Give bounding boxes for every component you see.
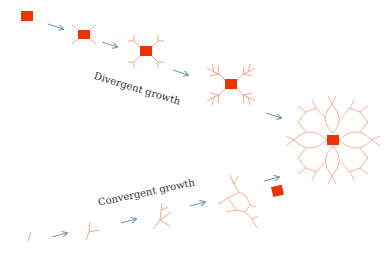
arrow-icon — [173, 70, 188, 75]
arrow-icon — [52, 233, 67, 237]
convergent-stage-2 — [86, 222, 99, 240]
arrow-icon — [121, 219, 136, 223]
convergent-stage-3 — [153, 203, 171, 229]
arrow-icon — [266, 113, 281, 118]
arrow-icon — [190, 202, 205, 206]
convergent-stage-1 — [28, 232, 31, 241]
diagram-canvas — [0, 0, 391, 253]
growth-diagram: Divergent growth Convergent growth — [0, 0, 391, 253]
divergent-stage-3 — [128, 35, 164, 68]
convergent-stage-4 — [218, 175, 258, 228]
divergent-stage-1 — [21, 11, 33, 21]
convergent-stage-5 — [271, 185, 284, 197]
arrow-icon — [102, 42, 117, 47]
arrow-icon — [264, 177, 279, 181]
divergent-stage-2 — [72, 25, 96, 44]
divergent-stage-4 — [207, 64, 255, 105]
divergent-stage-5 — [286, 96, 380, 184]
arrow-icon — [48, 24, 63, 29]
